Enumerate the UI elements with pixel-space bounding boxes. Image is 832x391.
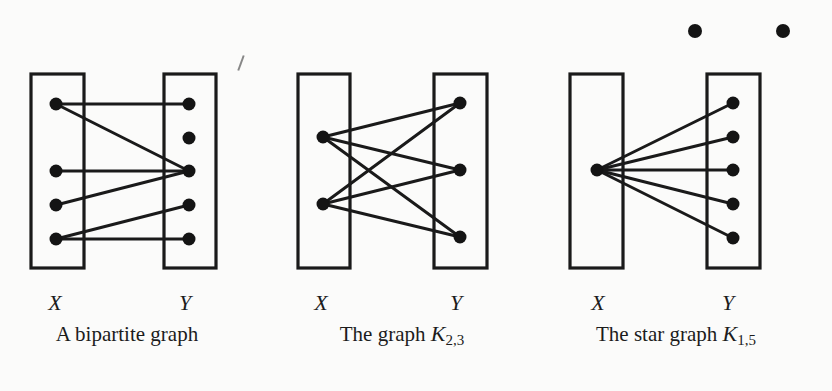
k23-caption: The graph K2,3	[340, 323, 464, 348]
graph-edge	[56, 205, 189, 239]
bipartite-x-set-label: X	[48, 292, 61, 314]
k23-y-set-label: Y	[450, 292, 462, 314]
graph-edge	[597, 137, 733, 170]
x-partition-box	[298, 74, 350, 268]
y-vertex	[454, 97, 467, 110]
stray-vertex	[776, 24, 790, 38]
y-vertex	[727, 131, 740, 144]
x-vertex	[317, 198, 330, 211]
x-vertex	[50, 98, 63, 111]
bipartite-y-set-label: Y	[179, 292, 191, 314]
caption-text: The star graph	[596, 322, 723, 346]
y-vertex	[727, 232, 740, 245]
y-vertex	[183, 98, 196, 111]
bipartite-caption: A bipartite graph	[56, 323, 198, 348]
y-vertex	[727, 97, 740, 110]
caption-subscript: 1,5	[737, 332, 756, 348]
graph-edge	[597, 170, 733, 204]
caption-subscript: 2,3	[445, 332, 464, 348]
star-graph-k15-diagram	[570, 74, 760, 268]
x-vertex	[50, 233, 63, 246]
caption-text: A bipartite graph	[56, 322, 198, 346]
caption-text: The graph	[340, 322, 431, 346]
x-vertex	[591, 164, 604, 177]
x-vertex	[317, 131, 330, 144]
k15-y-set-label: Y	[722, 292, 734, 314]
bipartite-graph-diagram	[31, 74, 216, 268]
y-vertex	[454, 164, 467, 177]
y-vertex	[183, 199, 196, 212]
x-vertex	[50, 165, 63, 178]
k15-caption: The star graph K1,5	[596, 323, 756, 348]
graph-edge	[56, 171, 189, 205]
graph-edge	[56, 104, 189, 171]
k23-x-set-label: X	[314, 292, 327, 314]
caption-math: K	[723, 321, 738, 346]
k15-x-set-label: X	[591, 292, 604, 314]
stray-vertex	[688, 24, 702, 38]
caption-math: K	[431, 321, 446, 346]
x-vertex	[50, 199, 63, 212]
stray-nodes	[688, 24, 790, 38]
graph-edge	[597, 170, 733, 238]
k23-graph-diagram	[298, 74, 487, 268]
y-vertex	[183, 233, 196, 246]
y-vertex	[454, 231, 467, 244]
y-vertex	[183, 165, 196, 178]
graph-edge	[597, 103, 733, 170]
y-vertex	[727, 164, 740, 177]
y-vertex	[727, 198, 740, 211]
y-vertex	[183, 132, 196, 145]
